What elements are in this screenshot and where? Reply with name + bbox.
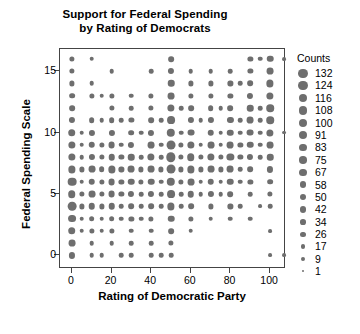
legend-dot-icon: [299, 119, 307, 127]
legend-marker: [295, 181, 311, 188]
data-point: [282, 254, 286, 258]
y-tick-label: 15: [16, 64, 56, 76]
data-point: [149, 93, 154, 98]
data-point: [207, 141, 214, 148]
data-point: [227, 117, 233, 123]
data-point: [258, 204, 262, 208]
data-point: [109, 117, 115, 123]
legend-dot-icon: [299, 131, 307, 139]
data-point: [149, 216, 154, 221]
data-point: [208, 204, 213, 209]
data-point: [227, 154, 234, 161]
x-tick: [111, 268, 112, 273]
data-point: [167, 203, 174, 210]
legend-marker: [295, 219, 311, 225]
legend-item: 1: [295, 265, 357, 277]
data-point: [148, 191, 154, 197]
legend-value: 91: [315, 129, 327, 141]
data-point: [119, 253, 124, 258]
data-point: [129, 93, 134, 98]
legend-item: 17: [295, 240, 357, 252]
data-point: [227, 129, 234, 136]
data-point: [68, 166, 75, 173]
x-tick-label: 100: [249, 274, 289, 286]
data-point: [218, 179, 223, 184]
data-point: [208, 117, 214, 123]
data-point: [68, 227, 76, 235]
data-point: [109, 93, 114, 98]
data-point: [119, 179, 124, 184]
data-point: [208, 93, 213, 98]
data-point: [268, 229, 272, 233]
data-point: [238, 167, 243, 172]
data-point: [227, 178, 234, 185]
data-point: [167, 128, 175, 136]
data-point: [228, 105, 234, 111]
data-point: [198, 143, 203, 148]
data-point: [129, 106, 134, 111]
legend-dot-icon: [300, 181, 307, 188]
data-point: [99, 142, 104, 147]
data-point: [119, 191, 124, 196]
data-point: [248, 69, 253, 74]
data-point: [68, 215, 76, 223]
data-point: [247, 129, 254, 136]
data-point: [267, 129, 274, 136]
data-point: [88, 142, 95, 149]
legend-value: 34: [315, 216, 327, 228]
data-point: [178, 167, 183, 172]
data-point: [108, 203, 115, 210]
legend-dot-icon: [301, 244, 306, 249]
data-point: [247, 142, 254, 149]
legend-marker: [295, 81, 311, 90]
data-point: [179, 204, 184, 209]
data-point: [258, 143, 263, 148]
data-point: [149, 69, 154, 74]
data-point: [69, 69, 74, 74]
data-point: [198, 167, 203, 172]
data-point: [208, 81, 213, 86]
data-point: [218, 143, 223, 148]
data-point: [218, 192, 223, 197]
x-tick-label: 20: [91, 274, 131, 286]
data-point: [248, 216, 253, 221]
data-point: [109, 216, 115, 222]
data-point: [247, 117, 254, 124]
legend-value: 100: [315, 117, 333, 129]
data-point: [267, 154, 274, 161]
data-point: [159, 192, 164, 197]
legend-item: 75: [295, 154, 357, 166]
data-point: [267, 166, 273, 172]
legend-item: 26: [295, 228, 357, 240]
data-point: [187, 129, 194, 136]
data-point: [69, 81, 74, 86]
data-point: [189, 229, 194, 234]
data-point: [159, 167, 164, 172]
data-point: [108, 130, 114, 136]
data-point: [228, 69, 233, 74]
legend-marker: [295, 144, 311, 152]
data-point: [168, 80, 175, 87]
data-point: [129, 118, 134, 123]
data-point: [68, 154, 75, 161]
data-point: [267, 141, 274, 148]
data-point: [228, 204, 233, 209]
data-point: [268, 254, 272, 258]
data-point: [89, 57, 94, 62]
x-tick: [190, 268, 191, 273]
data-point: [109, 105, 114, 110]
data-point: [258, 130, 263, 135]
data-point: [248, 192, 253, 197]
legend-value: 132: [315, 67, 333, 79]
legend-item: 58: [295, 179, 357, 191]
data-point: [266, 104, 274, 112]
data-point: [207, 178, 214, 185]
data-point: [148, 203, 154, 209]
data-point: [69, 56, 74, 61]
data-point: [198, 118, 203, 123]
data-point: [258, 106, 263, 111]
legend-dot-icon: [299, 169, 306, 176]
data-point: [187, 166, 194, 173]
data-point: [218, 167, 223, 172]
data-point: [159, 204, 164, 209]
